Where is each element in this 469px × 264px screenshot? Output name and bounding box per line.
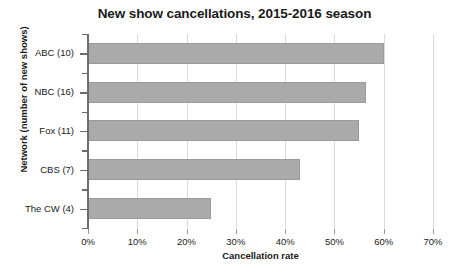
plot-area <box>88 34 433 228</box>
y-axis-tick-boundary <box>82 73 88 74</box>
bars-layer <box>88 34 433 228</box>
bar-abc[interactable] <box>88 43 384 64</box>
y-axis-tick <box>80 92 88 93</box>
x-axis-tick <box>433 229 434 234</box>
y-axis-label: Fox (11) <box>0 125 74 136</box>
bar-cbs[interactable] <box>88 159 300 180</box>
x-axis-label: 60% <box>364 236 404 247</box>
y-axis-tick-boundary <box>82 228 88 229</box>
y-axis-tick <box>80 53 88 54</box>
bar-row <box>88 34 384 73</box>
bar-row <box>88 189 211 228</box>
gridline-70pct <box>433 34 434 228</box>
x-axis-label: 10% <box>117 236 157 247</box>
x-axis-tick <box>384 229 385 234</box>
x-axis-label: 70% <box>413 236 453 247</box>
x-axis-label: 40% <box>265 236 305 247</box>
y-axis-tick <box>80 170 88 171</box>
bar-chart: New show cancellations, 2015-2016 season… <box>0 0 469 264</box>
x-axis-tick <box>88 229 89 234</box>
y-axis-tick-boundary <box>82 34 88 35</box>
x-axis-label: 0% <box>68 236 108 247</box>
y-axis-label: CBS (7) <box>0 164 74 175</box>
bar-nbc[interactable] <box>88 82 366 103</box>
chart-title: New show cancellations, 2015-2016 season <box>0 6 469 21</box>
y-axis-tick-boundary <box>82 112 88 113</box>
bar-fox[interactable] <box>88 120 359 141</box>
y-axis-tick-boundary <box>82 189 88 190</box>
y-axis-label: ABC (10) <box>0 47 74 58</box>
x-axis-tick <box>137 229 138 234</box>
y-axis-title: Network (number of new shows) <box>18 15 29 185</box>
y-axis-label: The CW (4) <box>0 203 74 214</box>
bar-the[interactable] <box>88 198 211 219</box>
y-axis-tick-boundary <box>82 150 88 151</box>
y-axis-tick <box>80 209 88 210</box>
x-axis-label: 50% <box>314 236 354 247</box>
bar-row <box>88 73 366 112</box>
x-axis-tick <box>285 229 286 234</box>
x-axis-tick <box>236 229 237 234</box>
x-axis-title: Cancellation rate <box>88 250 433 261</box>
bar-row <box>88 150 300 189</box>
y-axis-tick <box>80 131 88 132</box>
y-axis-label: NBC (16) <box>0 86 74 97</box>
x-axis-label: 20% <box>167 236 207 247</box>
x-axis-tick <box>187 229 188 234</box>
bar-row <box>88 112 359 151</box>
x-axis-label: 30% <box>216 236 256 247</box>
x-axis-tick <box>334 229 335 234</box>
